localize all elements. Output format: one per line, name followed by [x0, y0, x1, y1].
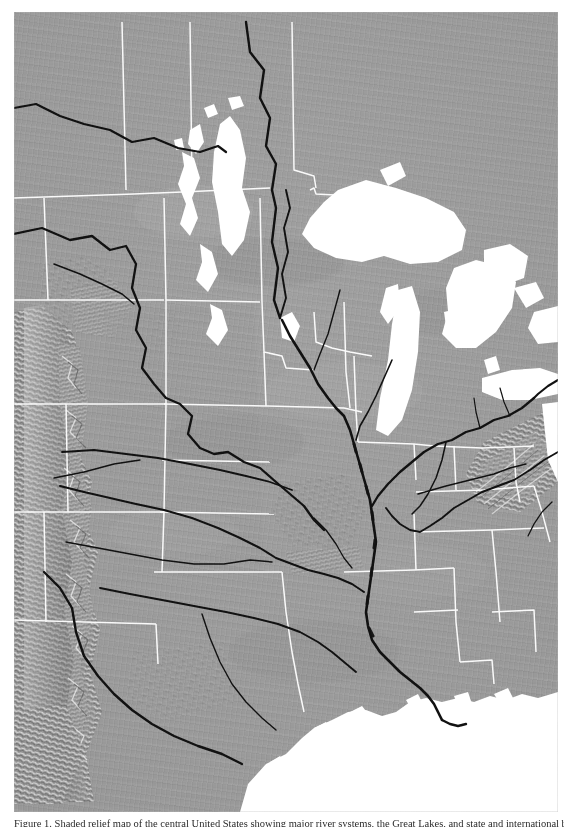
figure-container: Figure 1. Shaded relief map of the centr… — [0, 0, 578, 827]
relief-map-plate — [14, 12, 558, 812]
figure-caption: Figure 1. Shaded relief map of the centr… — [14, 818, 564, 827]
relief-map-svg — [14, 12, 558, 812]
